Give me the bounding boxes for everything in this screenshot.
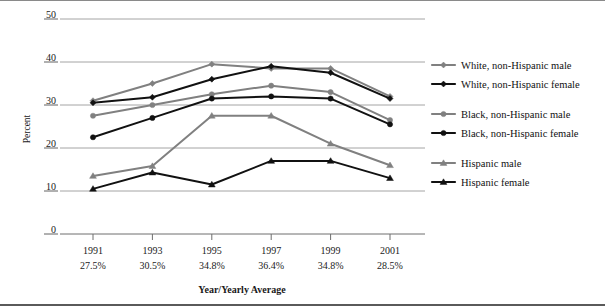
x-axis bbox=[93, 234, 390, 240]
x-tick-label-year: 1991 bbox=[83, 245, 103, 256]
gridlines bbox=[60, 19, 425, 234]
x-tick-label-average: 27.5% bbox=[80, 260, 106, 271]
x-tick-label-year: 1995 bbox=[202, 245, 222, 256]
y-tick-label: 40 bbox=[46, 52, 56, 63]
y-axis-tick-labels: 01020304050 bbox=[44, 9, 58, 235]
chart-legend: White, non-Hispanic maleWhite, non-Hispa… bbox=[432, 60, 580, 188]
legend-item[interactable]: Hispanic male bbox=[432, 158, 522, 169]
data-point-marker bbox=[90, 135, 95, 140]
x-tick-label-year: 1993 bbox=[142, 245, 162, 256]
data-point-marker bbox=[328, 70, 334, 76]
x-tick-label-average: 34.8% bbox=[318, 260, 344, 271]
data-series bbox=[90, 158, 394, 192]
data-point-marker bbox=[269, 83, 274, 88]
data-point-marker bbox=[150, 115, 155, 120]
x-tick-label-year: 1997 bbox=[261, 245, 281, 256]
data-point-marker bbox=[90, 113, 95, 118]
x-tick-label-average: 34.8% bbox=[199, 260, 225, 271]
y-tick-label: 0 bbox=[51, 224, 56, 235]
legend-swatch-marker bbox=[441, 111, 446, 116]
line-chart: 01020304050 199127.5%199330.5%199534.8%1… bbox=[0, 1, 605, 306]
series-line bbox=[93, 161, 390, 189]
x-tick-label-average: 30.5% bbox=[139, 260, 165, 271]
legend-item[interactable]: White, non-Hispanic male bbox=[432, 60, 572, 71]
series-line bbox=[93, 96, 390, 137]
legend-item[interactable]: Black, non-Hispanic male bbox=[432, 109, 571, 120]
legend-swatch-marker bbox=[441, 62, 447, 68]
series-line bbox=[93, 116, 390, 176]
y-tick-label: 30 bbox=[46, 95, 56, 106]
legend-item-label: Hispanic male bbox=[461, 158, 522, 169]
x-tick-label-average: 28.5% bbox=[377, 260, 403, 271]
data-point-marker bbox=[269, 94, 274, 99]
series-line bbox=[93, 64, 390, 101]
data-point-marker bbox=[209, 76, 215, 82]
data-series-group bbox=[90, 61, 394, 191]
x-axis-title: Year/Yearly Average bbox=[198, 284, 286, 295]
legend-swatch-marker bbox=[441, 130, 446, 135]
y-tick-label: 10 bbox=[46, 181, 56, 192]
x-tick-label-average: 36.4% bbox=[258, 260, 284, 271]
data-point-marker bbox=[387, 122, 392, 127]
data-point-marker bbox=[328, 96, 333, 101]
legend-item[interactable]: Hispanic female bbox=[432, 177, 530, 188]
legend-swatch-marker bbox=[441, 81, 447, 87]
x-tick-label-year: 2001 bbox=[380, 245, 400, 256]
legend-item[interactable]: White, non-Hispanic female bbox=[432, 79, 580, 90]
legend-item-label: Hispanic female bbox=[461, 177, 530, 188]
legend-item[interactable]: Black, non-Hispanic female bbox=[432, 128, 579, 139]
y-tick-label: 50 bbox=[46, 9, 56, 20]
x-axis-tick-labels: 199127.5%199330.5%199534.8%199736.4%1999… bbox=[80, 245, 403, 271]
y-axis-title: Percent bbox=[22, 114, 32, 143]
data-point-marker bbox=[328, 90, 333, 95]
data-point-marker bbox=[149, 94, 155, 100]
chart-figure: 01020304050 199127.5%199330.5%199534.8%1… bbox=[0, 0, 605, 306]
legend-item-label: White, non-Hispanic male bbox=[461, 60, 572, 71]
x-tick-label-year: 1999 bbox=[321, 245, 341, 256]
legend-item-label: White, non-Hispanic female bbox=[461, 79, 580, 90]
data-series bbox=[90, 113, 394, 179]
legend-item-label: Black, non-Hispanic male bbox=[461, 109, 571, 120]
legend-item-label: Black, non-Hispanic female bbox=[461, 128, 579, 139]
data-point-marker bbox=[150, 102, 155, 107]
data-point-marker bbox=[209, 96, 214, 101]
y-tick-label: 20 bbox=[46, 138, 56, 149]
data-point-marker bbox=[149, 81, 155, 87]
